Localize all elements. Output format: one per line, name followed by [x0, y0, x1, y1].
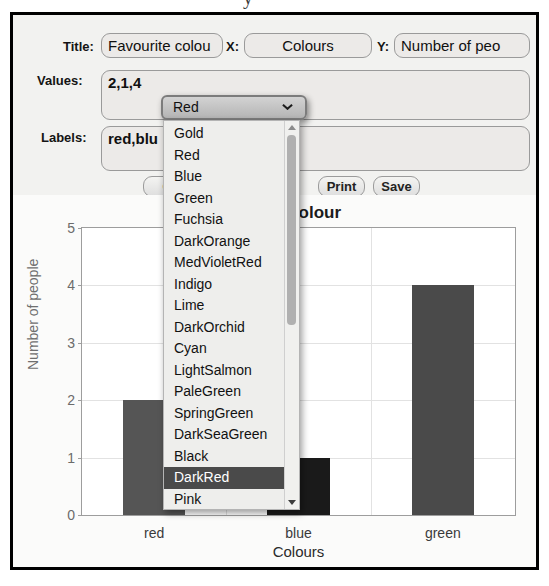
colour-dropdown-list[interactable]: GoldRedBlueGreenFuchsiaDarkOrangeMedViol… [163, 120, 300, 510]
stray-text-descender: y [243, 0, 253, 9]
chart-bar [412, 285, 474, 515]
dropdown-option[interactable]: DarkSeaGreen [164, 424, 282, 446]
dropdown-scrollbar-thumb[interactable] [287, 135, 296, 325]
chart-gridline-vertical [371, 228, 372, 515]
chart-y-tick-mark [78, 458, 82, 459]
chart-y-tick-label: 1 [67, 450, 75, 466]
dropdown-option[interactable]: Cyan [164, 338, 282, 360]
chevron-down-icon [283, 103, 293, 113]
dropdown-option[interactable]: Indigo [164, 274, 282, 296]
dropdown-option[interactable]: DarkOrchid [164, 317, 282, 339]
app-window: Title: Favourite colou X: Colours Y: Num… [10, 12, 539, 570]
dropdown-option[interactable]: SpringGreen [164, 403, 282, 425]
chart-y-tick-label: 2 [67, 392, 75, 408]
labels-field-label: Labels: [41, 130, 87, 145]
chart-y-tick-mark [78, 515, 82, 516]
chart-y-tick-mark [78, 400, 82, 401]
chart-y-tick-mark [78, 228, 82, 229]
chart-y-tick-label: 0 [67, 507, 75, 523]
chart-x-axis-label: Colours [81, 543, 516, 560]
dropdown-option[interactable]: Fuchsia [164, 209, 282, 231]
scroll-down-arrow-icon[interactable] [288, 500, 296, 505]
x-axis-input[interactable]: Colours [244, 33, 372, 58]
scroll-up-arrow-icon[interactable] [288, 125, 296, 130]
chart-y-tick-mark [78, 343, 82, 344]
dropdown-option[interactable]: Pink [164, 489, 282, 511]
dropdown-option[interactable]: Blue [164, 166, 282, 188]
x-axis-field-label: X: [226, 39, 239, 54]
chart-y-tick-label: 5 [67, 220, 75, 236]
dropdown-option[interactable]: LightSalmon [164, 360, 282, 382]
dropdown-option[interactable]: Green [164, 188, 282, 210]
dropdown-option[interactable]: PaleGreen [164, 381, 282, 403]
chart-x-tick-label: green [425, 525, 461, 541]
dropdown-option[interactable]: Lime [164, 295, 282, 317]
dropdown-option[interactable]: DarkOrange [164, 231, 282, 253]
dropdown-option[interactable]: DarkRed [164, 467, 300, 489]
chart-y-tick-label: 3 [67, 335, 75, 351]
colour-dropdown-selected-value: Red [173, 99, 199, 115]
dropdown-option[interactable]: MedVioletRed [164, 252, 282, 274]
print-button[interactable]: Print [318, 176, 365, 197]
dropdown-option[interactable]: Gold [164, 123, 282, 145]
y-axis-field-label: Y: [377, 39, 389, 54]
chart-y-axis-label: Number of people [25, 259, 41, 370]
dropdown-option[interactable]: Black [164, 446, 282, 468]
chart-x-tick-label: red [144, 525, 164, 541]
chart-x-tick-label: blue [285, 525, 311, 541]
colour-dropdown-button[interactable]: Red [161, 95, 307, 120]
title-input[interactable]: Favourite colou [101, 33, 223, 58]
chart-y-tick-label: 4 [67, 277, 75, 293]
values-field-label: Values: [37, 73, 83, 88]
save-button[interactable]: Save [373, 176, 420, 197]
dropdown-scrollbar[interactable] [284, 121, 299, 509]
chart-y-tick-mark [78, 285, 82, 286]
title-field-label: Title: [63, 39, 94, 54]
y-axis-input[interactable]: Number of peo [394, 33, 530, 58]
dropdown-option[interactable]: Red [164, 145, 282, 167]
